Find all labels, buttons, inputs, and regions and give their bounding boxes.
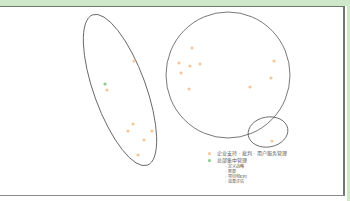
data-point: [248, 85, 251, 88]
data-point: [103, 82, 106, 85]
data-point: [270, 139, 273, 142]
data-point: [142, 138, 145, 141]
data-point: [198, 62, 201, 65]
data-point: [269, 76, 272, 79]
data-point: [187, 87, 190, 90]
legend: 企业支持 · 批判 · 用户服务管理 总部集中管理 - 定义战略 - 框架 - …: [208, 150, 287, 184]
legend-item-hq-management: 总部集中管理: [208, 157, 287, 164]
green-marker-icon: [208, 159, 211, 162]
data-point: [177, 61, 180, 64]
small-circle: [246, 114, 291, 150]
large-circle: [166, 12, 290, 138]
data-point: [150, 129, 153, 132]
legend-subitem: - 效果评估: [208, 179, 287, 184]
cluster-diagram: [0, 0, 350, 201]
data-point: [272, 59, 275, 62]
data-point: [188, 64, 191, 67]
legend-label: 总部集中管理: [217, 157, 247, 164]
legend-label: 企业支持 · 批判 · 用户服务管理: [217, 150, 287, 157]
left-ellipse: [68, 6, 172, 174]
data-point: [190, 46, 193, 49]
legend-item-enterprise-support: 企业支持 · 批判 · 用户服务管理: [208, 150, 287, 157]
data-point: [136, 153, 139, 156]
data-point: [179, 71, 182, 74]
orange-marker-icon: [208, 152, 211, 155]
data-point: [105, 88, 108, 91]
data-point: [132, 59, 135, 62]
data-point: [126, 129, 129, 132]
data-point: [131, 122, 134, 125]
